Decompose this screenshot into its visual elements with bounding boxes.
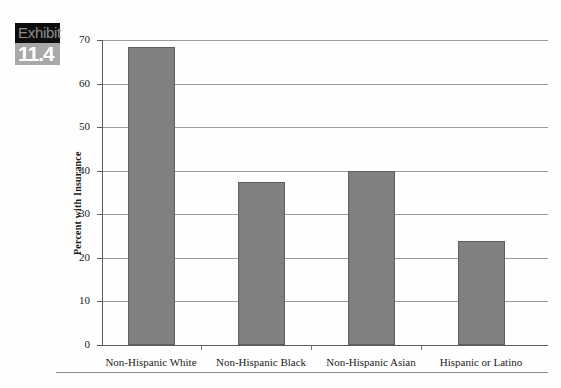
bar <box>458 241 505 345</box>
x-axis-tick <box>421 346 422 350</box>
x-axis-tick-label: Non-Hispanic Asian <box>311 356 431 368</box>
exhibit-figure-page: Exhibit 11.4 010203040506070Percent with… <box>0 0 561 388</box>
bar-chart: 010203040506070Percent with InsuranceNon… <box>0 0 561 388</box>
y-axis-tick-label: 10 <box>64 295 90 306</box>
x-axis-tick <box>311 346 312 350</box>
y-axis-title: Percent with Insurance <box>72 151 83 255</box>
x-axis-tick-label: Non-Hispanic White <box>91 356 211 368</box>
bar <box>348 171 395 345</box>
gridline <box>102 40 548 41</box>
x-axis-tick-label: Hispanic or Latino <box>421 356 541 368</box>
x-axis-tick-label: Non-Hispanic Black <box>201 356 321 368</box>
bar <box>128 47 175 345</box>
bar <box>238 182 285 345</box>
y-axis-tick-label: 50 <box>64 121 90 132</box>
y-axis-tick-label: 70 <box>64 34 90 45</box>
footer-divider <box>56 372 548 373</box>
y-axis-line <box>102 40 103 346</box>
y-axis-tick-label: 60 <box>64 78 90 89</box>
x-axis-tick <box>201 346 202 350</box>
y-axis-tick-label: 0 <box>64 339 90 350</box>
x-axis-line <box>102 345 548 346</box>
